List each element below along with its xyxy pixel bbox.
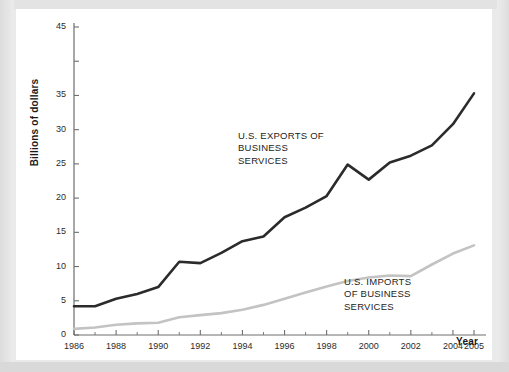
y-tick-label: 25 bbox=[44, 158, 66, 168]
page-bottom-band bbox=[0, 362, 509, 372]
page-top-band bbox=[0, 0, 509, 9]
y-tick-label: 0 bbox=[44, 329, 66, 339]
page-right-gutter bbox=[497, 0, 509, 372]
page-left-gutter bbox=[0, 0, 14, 372]
x-tick-label: 2000 bbox=[349, 341, 389, 351]
imports-line-series bbox=[74, 245, 474, 329]
exports-series-annotation: U.S. EXPORTS OF BUSINESS SERVICES bbox=[238, 130, 324, 167]
series-group bbox=[74, 93, 474, 328]
x-tick-label: 2002 bbox=[391, 341, 431, 351]
x-tick-label: 1992 bbox=[180, 341, 220, 351]
y-tick-label: 5 bbox=[44, 295, 66, 305]
x-tick-label: 1986 bbox=[54, 341, 94, 351]
y-tick-label: 10 bbox=[44, 261, 66, 271]
y-tick-label: 30 bbox=[44, 124, 66, 134]
y-tick-label: 20 bbox=[44, 192, 66, 202]
y-tick-label: 45 bbox=[44, 21, 66, 31]
x-axis-title: Year bbox=[456, 336, 478, 347]
x-tick-label: 1998 bbox=[307, 341, 347, 351]
y-tick-label: 35 bbox=[44, 89, 66, 99]
x-tick-label: 1994 bbox=[222, 341, 262, 351]
y-tick-label: 15 bbox=[44, 226, 66, 236]
plot-area: 0510152025303545 19861988199019921994199… bbox=[16, 9, 492, 360]
x-tick-label: 1988 bbox=[96, 341, 136, 351]
chart-canvas bbox=[16, 9, 492, 360]
y-axis-ticks bbox=[74, 27, 79, 335]
x-tick-label: 1990 bbox=[138, 341, 178, 351]
imports-series-annotation: U.S. IMPORTS OF BUSINESS SERVICES bbox=[344, 276, 411, 313]
x-axis-ticks bbox=[74, 330, 474, 335]
axis-group bbox=[74, 23, 486, 335]
y-axis-title: Billions of dollars bbox=[29, 58, 40, 188]
chart-card: 0510152025303545 19861988199019921994199… bbox=[16, 9, 492, 360]
figure-root: 0510152025303545 19861988199019921994199… bbox=[0, 0, 509, 372]
x-tick-label: 1996 bbox=[265, 341, 305, 351]
